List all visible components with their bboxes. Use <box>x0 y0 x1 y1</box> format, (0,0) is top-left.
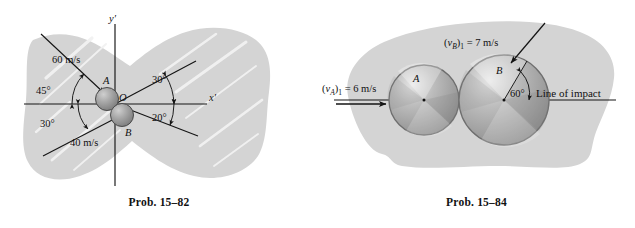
label-angle-60: 60° <box>510 88 525 99</box>
figure-prob-15-82: 60 m/s 45° 40 m/s 30° 30° 20° A B O x′ y… <box>0 0 318 228</box>
label-speed-B-in: 40 m/s <box>70 137 98 148</box>
label-line-of-impact: Line of impact <box>536 87 601 99</box>
caption-prob-15-84: Prob. 15–84 <box>318 196 635 208</box>
prob-15-84-drawing: (vA)1 = 6 m/s (vB)1 = 7 m/s A B 60° Line… <box>318 0 635 228</box>
label-axis-x: x′ <box>208 92 217 103</box>
label-angle-30-left: 30° <box>40 118 55 129</box>
label-ball-A-left: A <box>102 75 110 86</box>
label-ball-B-left: B <box>125 127 132 138</box>
label-angle-30-right: 30° <box>152 74 167 85</box>
figure-page: 60 m/s 45° 40 m/s 30° 30° 20° A B O x′ y… <box>0 0 635 228</box>
label-origin-O: O <box>119 92 127 103</box>
label-axis-y: y′ <box>108 13 117 24</box>
label-angle-20-right: 20° <box>152 112 167 123</box>
label-speed-A-in: 60 m/s <box>52 54 80 65</box>
label-sphere-B: B <box>496 65 503 76</box>
label-angle-45: 45° <box>36 85 51 96</box>
label-sphere-A: A <box>412 73 420 84</box>
caption-prob-15-82: Prob. 15–82 <box>0 196 318 208</box>
prob-15-82-drawing: 60 m/s 45° 40 m/s 30° 30° 20° A B O x′ y… <box>0 0 318 228</box>
figure-prob-15-84: (vA)1 = 6 m/s (vB)1 = 7 m/s A B 60° Line… <box>318 0 635 228</box>
ball-B-left <box>111 104 134 127</box>
